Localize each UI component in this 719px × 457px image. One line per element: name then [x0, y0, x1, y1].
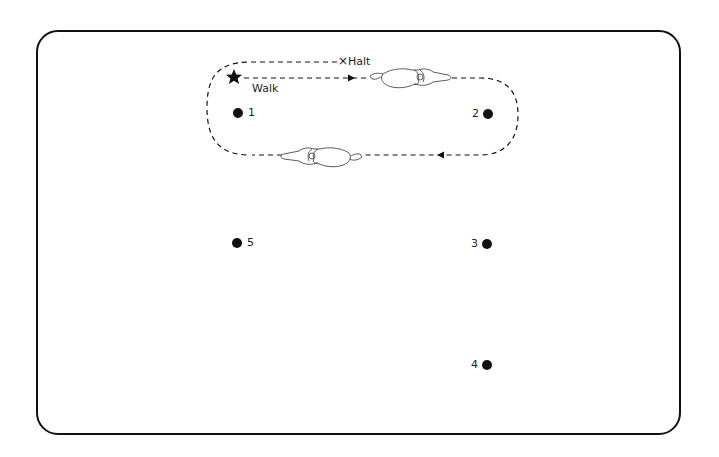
horse-facing-left-icon — [281, 148, 362, 167]
marker-5-dot — [232, 238, 242, 248]
marker-1-label: 1 — [248, 107, 255, 118]
halt-x-marker: × — [338, 55, 348, 67]
walk-label: Walk — [252, 83, 278, 94]
direction-arrow-right-icon — [348, 75, 355, 82]
marker-3-label: 3 — [471, 238, 478, 249]
horse-facing-right-icon — [370, 69, 451, 88]
marker-1-dot — [233, 108, 243, 118]
marker-5-label: 5 — [247, 237, 254, 248]
marker-4-label: 4 — [471, 359, 478, 370]
star-icon — [226, 69, 242, 84]
pattern-diagram — [0, 0, 719, 457]
halt-path — [207, 62, 337, 155]
marker-4-dot — [482, 360, 492, 370]
marker-2-label: 2 — [472, 108, 479, 119]
direction-arrow-left-icon — [437, 152, 444, 159]
marker-3-dot — [482, 239, 492, 249]
walk-path-right-curve — [362, 78, 518, 155]
halt-label: Halt — [348, 56, 370, 67]
marker-2-dot — [483, 109, 493, 119]
